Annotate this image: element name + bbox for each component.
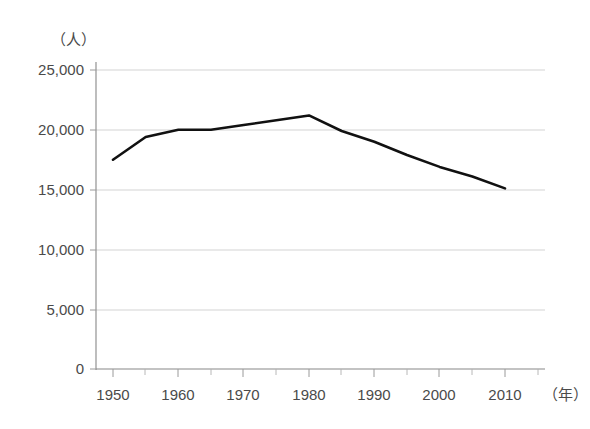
chart-canvas: （人） 25,000 20,000 15,000 10,000 5,000 0 … bbox=[0, 0, 590, 429]
x-axis-label-2010: 2010 bbox=[488, 386, 521, 403]
x-axis-label-1990: 1990 bbox=[357, 386, 390, 403]
y-axis-label-25000: 25,000 bbox=[38, 61, 84, 78]
y-axis-unit-label: （人） bbox=[51, 31, 96, 48]
x-axis-label-1980: 1980 bbox=[292, 386, 325, 403]
y-axis-label-20000: 20,000 bbox=[38, 121, 84, 138]
x-axis-label-1960: 1960 bbox=[161, 386, 194, 403]
x-axis-label-1950: 1950 bbox=[96, 386, 129, 403]
x-axis-unit-label: （年） bbox=[543, 386, 588, 403]
chart-background bbox=[0, 0, 590, 429]
y-axis-label-10000: 10,000 bbox=[38, 241, 84, 258]
y-axis-label-5000: 5,000 bbox=[46, 301, 84, 318]
y-axis-label-15000: 15,000 bbox=[38, 181, 84, 198]
y-axis-label-0: 0 bbox=[76, 360, 84, 377]
x-axis-label-2000: 2000 bbox=[422, 386, 455, 403]
x-axis-label-1970: 1970 bbox=[226, 386, 259, 403]
line-chart-figure: （人） 25,000 20,000 15,000 10,000 5,000 0 … bbox=[0, 0, 590, 429]
